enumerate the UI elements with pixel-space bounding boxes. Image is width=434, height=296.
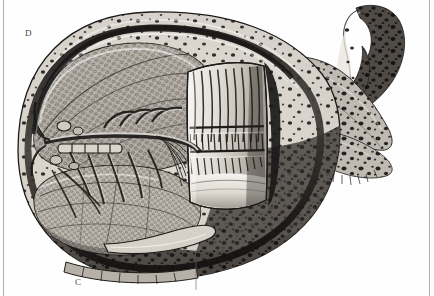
- figure-label-d: D: [25, 28, 32, 38]
- plate-border-left: [3, 0, 4, 296]
- figure-label-c: C: [75, 277, 82, 287]
- plate-border-right: [429, 0, 430, 296]
- engraving-artwork: [0, 0, 434, 296]
- illustration-plate: D C: [0, 0, 434, 296]
